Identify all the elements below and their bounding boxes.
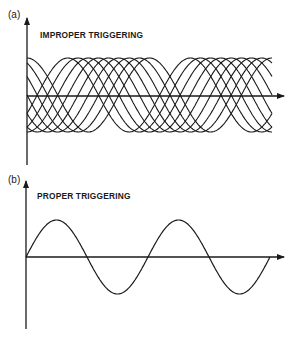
waveform-diagram xyxy=(0,0,297,337)
panel-a-axes xyxy=(27,18,284,165)
panel-a-overlapping-traces xyxy=(27,58,272,132)
panel-b-axes xyxy=(26,181,284,329)
trace xyxy=(27,58,272,132)
